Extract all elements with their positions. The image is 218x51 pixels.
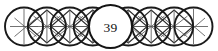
center-label-text: 39: [104, 20, 118, 35]
overlapping-circle-chain-figure: 39: [0, 0, 218, 51]
geometric-figure-container: 39: [0, 0, 218, 51]
center-label-circle-group: 39: [89, 5, 132, 48]
